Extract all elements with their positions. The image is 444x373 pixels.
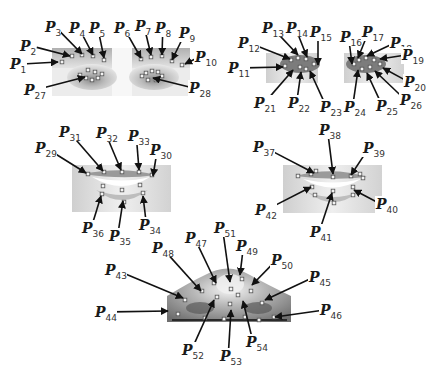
label-letter: P — [19, 38, 31, 54]
label-letter: P — [309, 24, 321, 40]
label-subscript: 1 — [21, 65, 27, 75]
landmark-point — [312, 62, 316, 66]
landmark-point — [93, 70, 97, 74]
label-letter: P — [149, 142, 161, 158]
label-subscript: 5 — [100, 29, 106, 39]
label-subscript: 16 — [351, 38, 363, 48]
label-letter: P — [181, 342, 193, 358]
landmark-point — [96, 76, 100, 80]
landmark-point — [304, 57, 308, 61]
label-letter: P — [178, 25, 190, 41]
landmark-point — [215, 295, 219, 299]
label-letter: P — [253, 95, 265, 111]
landmark-point — [138, 183, 142, 187]
label-subscript: 46 — [331, 311, 343, 321]
label-letter: P — [285, 20, 297, 36]
arrow-p11 — [245, 67, 283, 68]
label-subscript: 17 — [373, 33, 384, 43]
landmark-point — [352, 62, 356, 66]
label-letter: P — [23, 82, 35, 98]
label-letter: P — [194, 49, 206, 65]
label-letter: P — [68, 20, 80, 36]
landmark-point — [260, 301, 264, 305]
landmark-point — [378, 62, 382, 66]
label-letter: P — [34, 140, 46, 156]
landmark-point — [70, 54, 74, 58]
label-letter: P — [188, 80, 200, 96]
landmark-point — [331, 175, 335, 179]
landmark-point — [257, 318, 261, 322]
label-letter: P — [227, 60, 239, 76]
label-subscript: 14 — [297, 29, 309, 39]
facial-landmark-figure: P1P2P3P4P5P6P7P8P9P10P27P28P11P12P13P14P… — [0, 0, 444, 373]
landmark-point — [156, 70, 160, 74]
label-subscript: 22 — [299, 104, 310, 114]
label-letter: P — [318, 122, 330, 138]
label-letter: P — [184, 230, 196, 246]
label-subscript: 27 — [35, 91, 46, 101]
landmark-point — [360, 67, 364, 71]
landmark-point — [120, 170, 124, 174]
label-subscript: 38 — [330, 131, 342, 141]
label-subscript: 54 — [257, 343, 269, 353]
landmark-point — [357, 58, 361, 62]
landmark-point — [149, 55, 153, 59]
landmark-point — [331, 189, 335, 193]
label-subscript: 33 — [139, 137, 150, 147]
label-letter: P — [9, 56, 21, 72]
label-subscript: 3 — [56, 28, 62, 38]
left-eye — [67, 64, 117, 90]
landmark-point — [229, 287, 233, 291]
label-subscript: 2 — [31, 47, 37, 57]
label-subscript: 49 — [247, 247, 259, 257]
label-subscript: 20 — [415, 83, 427, 93]
label-subscript: 4 — [80, 29, 86, 39]
arrow-p44 — [112, 311, 168, 312]
landmark-point — [140, 74, 144, 78]
label-letter: P — [219, 348, 231, 364]
landmark-point — [150, 69, 154, 73]
label-letter: P — [213, 220, 225, 236]
landmark-point — [141, 191, 145, 195]
label-letter: P — [81, 220, 93, 236]
label-letter: P — [252, 139, 264, 155]
landmark-point — [372, 58, 376, 62]
landmark-point — [86, 68, 90, 72]
label-subscript: 35 — [120, 237, 131, 247]
landmark-point — [78, 73, 82, 77]
label-letter: P — [44, 19, 56, 35]
label-letter: P — [58, 124, 70, 140]
label-subscript: 7 — [146, 27, 152, 37]
label-letter: P — [319, 302, 331, 318]
label-letter: P — [127, 128, 139, 144]
label-subscript: 48 — [163, 249, 175, 259]
landmark-point — [160, 74, 164, 78]
landmark-point — [60, 60, 64, 64]
label-subscript: 11 — [239, 69, 250, 79]
label-letter: P — [389, 35, 401, 51]
label-letter: P — [375, 98, 387, 114]
label-subscript: 52 — [193, 351, 204, 361]
label-letter: P — [339, 29, 351, 45]
landmark-point — [120, 188, 124, 192]
label-letter: P — [138, 217, 150, 233]
landmark-point — [100, 192, 104, 196]
landmark-point — [236, 293, 240, 297]
label-subscript: 25 — [387, 107, 398, 117]
label-letter: P — [104, 262, 116, 278]
label-subscript: 34 — [150, 226, 162, 236]
label-subscript: 39 — [374, 149, 386, 159]
landmark-point — [368, 65, 372, 69]
landmark-point — [240, 277, 244, 281]
label-subscript: 42 — [266, 211, 277, 221]
label-letter: P — [235, 238, 247, 254]
landmark-point — [222, 317, 226, 321]
landmark-point — [364, 56, 368, 60]
label-subscript: 36 — [93, 229, 105, 239]
label-subscript: 45 — [320, 278, 331, 288]
landmark-point — [90, 78, 94, 82]
label-subscript: 47 — [196, 239, 207, 249]
label-letter: P — [309, 224, 321, 240]
label-letter: P — [270, 252, 282, 268]
label-letter: P — [319, 99, 331, 115]
